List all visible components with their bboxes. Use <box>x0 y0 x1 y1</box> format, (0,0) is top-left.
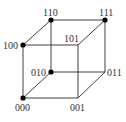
vertex-label-010: 010 <box>31 67 46 78</box>
vertex-label-100: 100 <box>3 40 18 51</box>
edge-101-111 <box>78 20 105 45</box>
vertex-dot-100 <box>20 42 25 47</box>
vertex-dot-010 <box>48 69 53 74</box>
vertex-label-111: 111 <box>99 7 113 18</box>
edge-001-011 <box>78 72 105 98</box>
binary-cube-diagram: 000001010011100101110111 <box>0 0 126 122</box>
vertex-dot-111 <box>102 17 107 22</box>
vertex-label-001: 001 <box>70 102 85 113</box>
vertex-label-000: 000 <box>15 102 30 113</box>
vertex-label-011: 011 <box>107 67 122 78</box>
edge-100-110 <box>23 20 51 45</box>
vertex-label-110: 110 <box>43 7 58 18</box>
vertex-dot-110 <box>48 17 53 22</box>
vertex-label-101: 101 <box>64 33 79 44</box>
vertex-dot-000 <box>20 95 25 100</box>
cube-edges <box>23 20 105 98</box>
